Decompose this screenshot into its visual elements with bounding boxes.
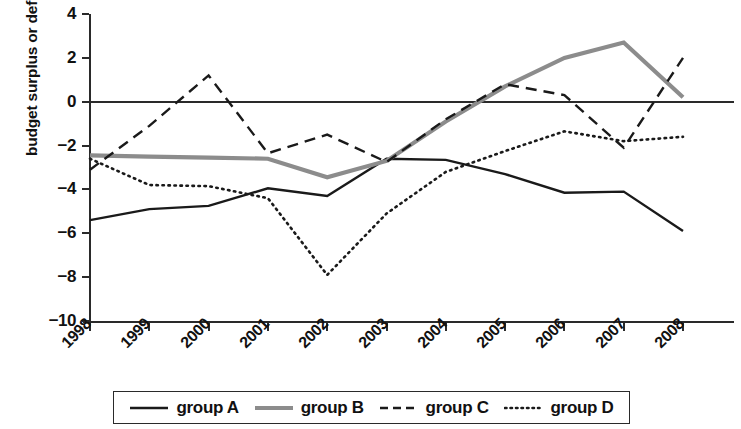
legend-item-group-b[interactable]: group B bbox=[254, 398, 364, 418]
legend-swatch-dotted-black-line-icon bbox=[504, 402, 544, 414]
y-axis-tick-label: 2 bbox=[30, 48, 76, 68]
y-axis-tick-mark bbox=[82, 188, 89, 190]
y-axis-tick-mark bbox=[82, 13, 89, 15]
y-axis-tick-label: −6 bbox=[30, 223, 76, 243]
plot-area bbox=[0, 0, 741, 429]
legend-label: group B bbox=[301, 398, 364, 418]
legend-item-group-c[interactable]: group C bbox=[379, 398, 489, 418]
legend-item-group-a[interactable]: group A bbox=[129, 398, 238, 418]
series-line-group-c bbox=[90, 58, 683, 170]
legend-label: group C bbox=[426, 398, 489, 418]
series-line-group-b bbox=[90, 43, 683, 178]
y-axis-tick-label: −2 bbox=[30, 136, 76, 156]
legend-swatch-dashed-black-line-icon bbox=[379, 402, 419, 414]
legend-swatch-solid-gray-thick-line-icon bbox=[254, 402, 294, 414]
legend-label: group D bbox=[551, 398, 614, 418]
legend-item-group-d[interactable]: group D bbox=[504, 398, 614, 418]
line-chart: budget surplus or deficit, % of GDP 420−… bbox=[0, 0, 741, 429]
y-axis-tick-label: 4 bbox=[30, 4, 76, 24]
chart-legend: group Agroup Bgroup Cgroup D bbox=[113, 391, 630, 424]
y-axis-tick-label: −8 bbox=[30, 267, 76, 287]
y-axis-tick-mark bbox=[82, 145, 89, 147]
y-axis-tick-label: 0 bbox=[30, 92, 76, 112]
y-axis-tick-mark bbox=[82, 276, 89, 278]
legend-swatch-solid-black-line-icon bbox=[129, 402, 169, 414]
y-axis-tick-mark bbox=[82, 232, 89, 234]
legend-label: group A bbox=[176, 398, 238, 418]
y-axis-tick-label: −4 bbox=[30, 179, 76, 199]
series-line-group-d bbox=[90, 131, 683, 275]
series-line-group-a bbox=[90, 159, 683, 231]
y-axis-tick-mark bbox=[82, 57, 89, 59]
y-axis-tick-mark bbox=[82, 101, 89, 103]
